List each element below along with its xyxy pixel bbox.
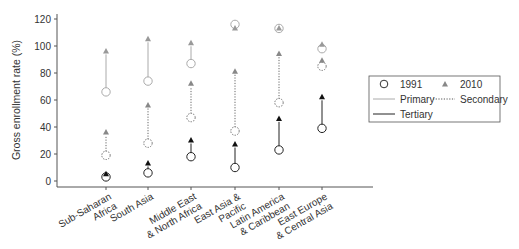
marker-2010 — [188, 40, 194, 46]
y-tick-label: 40 — [40, 122, 52, 133]
y-tick-label: 80 — [40, 68, 52, 79]
marker-1991 — [102, 151, 110, 159]
enrollment-chart: 020406080100120 Gross enrollment rate (%… — [0, 0, 519, 249]
marker-2010 — [188, 137, 194, 143]
legend-primary: Primary — [400, 94, 434, 105]
marker-2010 — [319, 41, 325, 47]
marker-1991 — [275, 99, 283, 107]
marker-2010 — [232, 68, 238, 74]
legend: 1991 2010 Primary Secondary Tertiary — [369, 76, 508, 122]
legend-secondary: Secondary — [460, 94, 508, 105]
marker-1991 — [231, 163, 239, 171]
marker-1991 — [318, 62, 326, 70]
y-axis-title: Gross enrollment rate (%) — [10, 40, 22, 160]
y-tick-label: 100 — [34, 41, 51, 52]
marker-2010 — [145, 36, 151, 42]
legend-1991: 1991 — [400, 79, 423, 90]
marker-1991 — [144, 139, 152, 147]
marker-1991 — [187, 113, 195, 121]
y-tick-label: 120 — [34, 14, 51, 25]
marker-1991 — [144, 169, 152, 177]
y-tick-label: 20 — [40, 149, 52, 160]
marker-1991 — [231, 127, 239, 135]
plot-area — [102, 20, 326, 181]
y-tick-label: 0 — [45, 176, 51, 187]
marker-2010 — [276, 51, 282, 57]
marker-1991 — [187, 59, 195, 67]
marker-2010 — [232, 141, 238, 147]
y-axis-ticks: 020406080100120 — [34, 14, 57, 187]
axes — [57, 14, 373, 187]
marker-1991 — [318, 124, 326, 132]
legend-2010: 2010 — [460, 79, 483, 90]
marker-2010 — [145, 102, 151, 108]
marker-2010 — [319, 94, 325, 100]
y-tick-label: 60 — [40, 95, 52, 106]
marker-1991 — [275, 146, 283, 154]
marker-2010 — [103, 129, 109, 135]
marker-1991 — [102, 88, 110, 96]
marker-2010 — [188, 80, 194, 86]
marker-1991 — [187, 153, 195, 161]
marker-2010 — [276, 115, 282, 121]
x-axis-categories: Sub-SaharanAfricaSouth AsiaMiddle East& … — [56, 187, 334, 241]
marker-2010 — [319, 57, 325, 63]
marker-2010 — [103, 48, 109, 54]
marker-2010 — [145, 160, 151, 166]
marker-1991 — [144, 77, 152, 85]
legend-tertiary: Tertiary — [400, 109, 433, 120]
